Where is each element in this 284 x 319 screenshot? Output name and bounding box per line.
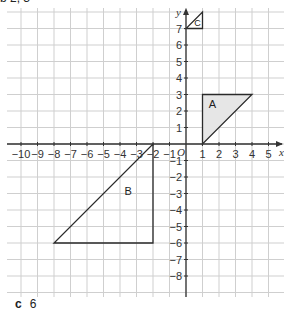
x-tick-label: −3: [130, 148, 143, 160]
coordinate-grid: ABC−10−9−8−7−6−5−4−3−2−1123457654321−1−2…: [0, 0, 284, 300]
x-tick-label: −6: [81, 148, 94, 160]
y-tick-label: −5: [169, 221, 182, 233]
y-tick-label: −2: [169, 171, 182, 183]
y-tick-label: 6: [176, 39, 182, 51]
x-tick-label: −8: [48, 148, 61, 160]
x-axis-label: x: [278, 146, 284, 158]
part-letter: c: [15, 297, 22, 311]
y-tick-label: −3: [169, 188, 182, 200]
x-tick-label: −9: [31, 148, 44, 160]
y-tick-label: −8: [169, 270, 182, 282]
y-tick-label: −7: [169, 254, 182, 266]
y-tick-label: 2: [176, 105, 182, 117]
x-tick-label: −5: [97, 148, 110, 160]
y-axis-label: y: [175, 6, 181, 18]
x-tick-label: −2: [147, 148, 160, 160]
answer-line: c6: [15, 297, 36, 311]
y-tick-label: 4: [176, 72, 182, 84]
y-tick-label: 5: [176, 56, 182, 68]
origin-label: O: [177, 146, 185, 158]
triangle-label-c: C: [194, 18, 201, 28]
x-tick-label: −10: [12, 148, 31, 160]
x-tick-label: 2: [216, 148, 222, 160]
y-tick-label: −6: [169, 237, 182, 249]
y-tick-label: −4: [169, 204, 182, 216]
x-tick-label: −7: [64, 148, 77, 160]
triangle-label-a: A: [209, 98, 217, 110]
x-tick-label: 5: [265, 148, 271, 160]
y-tick-label: 1: [176, 122, 182, 134]
triangle-label-b: B: [125, 185, 132, 197]
y-tick-label: 7: [176, 23, 182, 35]
x-tick-label: −4: [114, 148, 127, 160]
x-tick-label: 1: [199, 148, 205, 160]
x-tick-label: 3: [232, 148, 238, 160]
x-tick-label: 4: [249, 148, 255, 160]
answer-value: 6: [30, 297, 37, 311]
y-tick-label: 3: [176, 89, 182, 101]
